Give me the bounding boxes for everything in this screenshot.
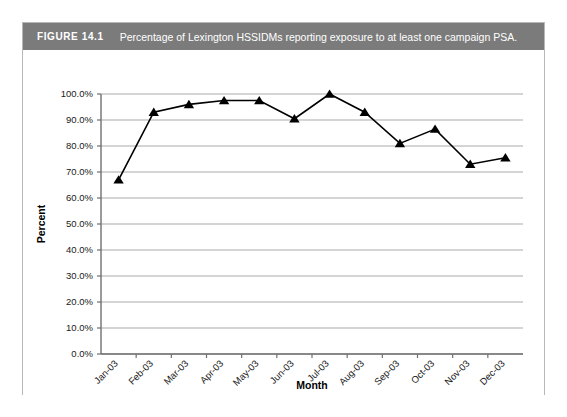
y-tick-label: 10.0% — [66, 322, 93, 333]
y-tick-label: 70.0% — [66, 166, 93, 177]
y-axis-title: Percent — [35, 204, 47, 243]
y-tick-label: 50.0% — [66, 218, 93, 229]
y-tick-label: 0.0% — [71, 348, 93, 359]
x-tick-label: Apr-03 — [198, 358, 226, 386]
x-tick-label: Dec-03 — [477, 358, 506, 387]
chart-area: 0.0%10.0%20.0%30.0%40.0%50.0%60.0%70.0%8… — [23, 50, 544, 396]
x-tick-label: Oct-03 — [409, 358, 437, 386]
y-tick-label: 90.0% — [66, 114, 93, 125]
y-tick-label: 80.0% — [66, 140, 93, 151]
x-tick-label: Feb-03 — [126, 358, 155, 387]
x-tick-label: Aug-03 — [337, 358, 366, 387]
y-tick-label: 20.0% — [66, 296, 93, 307]
y-tick-label: 40.0% — [66, 244, 93, 255]
data-point-marker — [500, 153, 510, 161]
x-tick-label: Jun-03 — [268, 358, 296, 386]
data-point-marker — [113, 175, 123, 183]
data-point-marker — [360, 108, 370, 116]
data-point-marker — [430, 125, 440, 133]
figure-caption-bar: FIGURE 14.1 Percentage of Lexington HSSI… — [23, 23, 544, 50]
data-series-line — [119, 94, 506, 180]
x-tick-label: Jan-03 — [92, 358, 120, 386]
x-tick-label: Mar-03 — [161, 358, 190, 387]
x-tick-label: Nov-03 — [442, 358, 471, 387]
x-tick-label: May-03 — [230, 358, 260, 388]
y-tick-label: 30.0% — [66, 270, 93, 281]
data-point-markers-group — [113, 89, 510, 183]
figure-number-label: FIGURE 14.1 — [37, 31, 104, 42]
figure-caption-text: Percentage of Lexington HSSIDMs reportin… — [120, 31, 517, 43]
y-tick-label: 100.0% — [61, 88, 94, 99]
gridlines-group — [101, 94, 523, 354]
x-axis-title: Month — [296, 379, 328, 391]
line-chart: 0.0%10.0%20.0%30.0%40.0%50.0%60.0%70.0%8… — [23, 50, 544, 396]
y-tick-label: 60.0% — [66, 192, 93, 203]
figure-container: FIGURE 14.1 Percentage of Lexington HSSI… — [22, 22, 545, 395]
x-tick-label: Sep-03 — [372, 358, 401, 387]
y-axis-ticks-group: 0.0%10.0%20.0%30.0%40.0%50.0%60.0%70.0%8… — [61, 88, 101, 359]
